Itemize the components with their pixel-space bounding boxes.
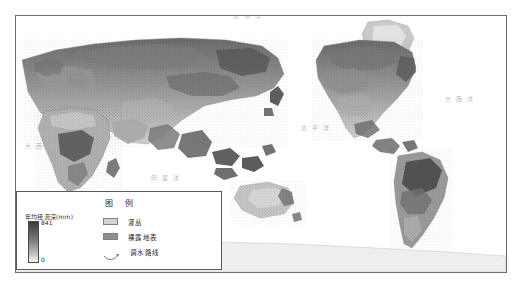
- colorbar-min-label: 0: [41, 256, 45, 263]
- water-diversion-line-icon: [103, 247, 120, 256]
- legend-item-shrub: 灌丛: [103, 214, 215, 229]
- landmass-africa: [36, 106, 122, 196]
- legend-item-label: 调水路线: [130, 247, 159, 257]
- ocean-label-indian-ocean: 印 度 洋: [151, 173, 181, 182]
- legend-item-bare-land: 裸露地表: [103, 229, 215, 244]
- legend-item-water-diversion-route: 调水路线: [103, 244, 215, 259]
- legend-title: 图 例: [17, 197, 221, 208]
- bare-land-swatch-icon: [103, 233, 118, 240]
- ocean-label-arctic-ocean: 北 冰 洋: [233, 15, 263, 20]
- landmass-south-america: [390, 148, 454, 252]
- ocean-label-pacific-ocean-north: 太 平 洋: [301, 123, 331, 132]
- colorbar-max-label: 841: [41, 219, 52, 226]
- screenshot-root: 北 冰 洋 太 平 洋 大 西 洋 大 西 洋 印 度 洋 图 例 年均径流深(…: [0, 0, 520, 286]
- colorbar-gradient: [28, 221, 39, 263]
- legend-item-label: 裸露地表: [128, 232, 157, 242]
- ocean-label-atlantic-ocean-east: 大 西 洋: [445, 94, 475, 103]
- colorbar: [28, 221, 39, 263]
- map-legend: 图 例 年均径流深(mm) 841 0 灌丛 裸露地表: [16, 191, 222, 270]
- landmass-australia: [231, 180, 306, 226]
- shrub-swatch-icon: [103, 218, 118, 225]
- legend-item-label: 灌丛: [128, 217, 143, 227]
- ocean-label-atlantic-ocean-west: 大 西 洋: [25, 141, 55, 150]
- legend-items: 灌丛 裸露地表 调水路线: [103, 214, 215, 259]
